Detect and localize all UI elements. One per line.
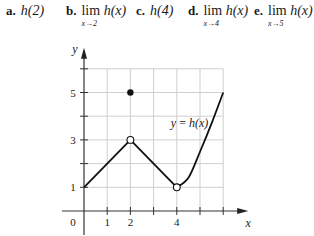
y-tick-label: 1: [70, 181, 76, 193]
curve-label: y = h(x): [170, 116, 208, 130]
x-axis-arrow-icon: [237, 208, 248, 214]
axes: [62, 48, 248, 235]
x-tick-label: 2: [128, 216, 134, 228]
function-graph: 0124135xyy = h(x): [0, 0, 314, 236]
y-tick-label: 5: [70, 87, 76, 99]
y-axis-arrow-icon: [81, 48, 87, 59]
axis-labels: 0124135xyy = h(x): [70, 42, 251, 230]
grid: [84, 69, 223, 211]
x-axis-label: x: [245, 216, 252, 230]
x-tick-label: 0: [70, 216, 76, 228]
x-tick-label: 4: [174, 216, 180, 228]
y-axis-label: y: [71, 42, 78, 56]
x-tick-label: 1: [104, 216, 110, 228]
filled-point: [127, 89, 133, 95]
open-point: [127, 137, 134, 144]
y-tick-label: 3: [70, 134, 76, 146]
open-point: [173, 184, 180, 191]
